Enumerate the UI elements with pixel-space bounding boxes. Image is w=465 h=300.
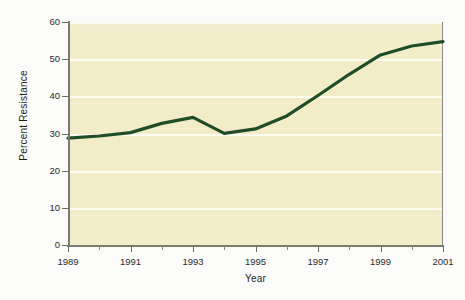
x-axis-tick-mark bbox=[68, 246, 69, 252]
x-axis-minor-tick-mark bbox=[412, 246, 413, 250]
x-axis-tick-label: 1991 bbox=[111, 256, 151, 267]
x-axis-tick-mark bbox=[443, 246, 444, 252]
y-axis-tick-label: 20 bbox=[36, 166, 60, 176]
y-axis-tick-label: 50 bbox=[36, 54, 60, 64]
series-line-chart bbox=[68, 23, 443, 246]
chart-screenshot: Percent Resistance 0102030405060 1989199… bbox=[0, 0, 465, 300]
x-axis-tick-label: 1989 bbox=[48, 256, 88, 267]
x-axis-tick-mark bbox=[131, 246, 132, 252]
y-axis-tick-label: 10 bbox=[36, 203, 60, 213]
y-axis-tick-label: 60 bbox=[36, 17, 60, 27]
x-axis-tick-label: 2001 bbox=[423, 256, 463, 267]
x-axis-tick-mark bbox=[193, 246, 194, 252]
x-axis-tick-label: 1999 bbox=[361, 256, 401, 267]
x-axis-minor-tick-mark bbox=[224, 246, 225, 250]
x-axis-minor-tick-mark bbox=[349, 246, 350, 250]
y-axis-tick-label: 40 bbox=[36, 91, 60, 101]
x-axis-minor-tick-mark bbox=[99, 246, 100, 250]
x-axis-tick-mark bbox=[381, 246, 382, 252]
x-axis-title: Year bbox=[68, 273, 443, 284]
plot-area bbox=[68, 22, 443, 245]
x-axis-tick-label: 1995 bbox=[236, 256, 276, 267]
figure: Percent Resistance 0102030405060 1989199… bbox=[0, 0, 465, 300]
x-axis-tick-label: 1997 bbox=[298, 256, 338, 267]
x-axis-minor-tick-mark bbox=[287, 246, 288, 250]
x-axis-tick-mark bbox=[256, 246, 257, 252]
x-axis-tick-label: 1993 bbox=[173, 256, 213, 267]
series-polyline bbox=[68, 42, 443, 139]
y-axis-tick-label: 30 bbox=[36, 129, 60, 139]
x-axis-minor-tick-mark bbox=[162, 246, 163, 250]
x-axis-tick-mark bbox=[318, 246, 319, 252]
y-axis-tick-label: 0 bbox=[36, 240, 60, 250]
y-axis-line bbox=[68, 21, 70, 246]
y-axis-title: Percent Resistance bbox=[18, 41, 29, 191]
